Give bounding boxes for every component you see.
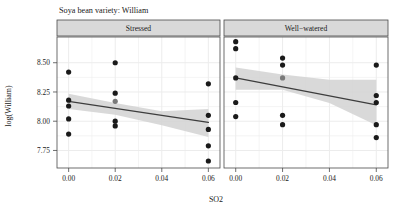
data-point xyxy=(206,127,211,132)
data-point xyxy=(66,131,71,136)
y-axis-title: log(William) xyxy=(4,85,13,127)
data-point xyxy=(374,135,379,140)
data-point xyxy=(66,103,71,108)
y-tick-label: 8.25 xyxy=(37,88,50,97)
x-tick-label: 0.06 xyxy=(370,174,383,183)
data-point xyxy=(206,81,211,86)
data-point xyxy=(233,100,238,105)
y-tick-label: 8.00 xyxy=(37,117,50,126)
data-point xyxy=(374,93,379,98)
data-point xyxy=(206,113,211,118)
x-axis-title: SO2 xyxy=(209,195,223,204)
plot-title: Soya bean variety: William xyxy=(59,6,149,15)
strip-label: Stressed xyxy=(126,24,152,33)
data-point xyxy=(233,114,238,119)
strip-label: Well−watered xyxy=(285,24,328,33)
chart-figure: Soya bean variety: William Stressed Well… xyxy=(0,0,395,207)
x-tick-label: 0.04 xyxy=(323,174,336,183)
data-point xyxy=(374,62,379,67)
data-point xyxy=(113,119,118,124)
panel-stressed: Stressed xyxy=(57,20,220,168)
x-tick-label: 0.06 xyxy=(202,174,215,183)
data-point xyxy=(113,91,118,96)
data-point xyxy=(233,75,238,80)
data-point xyxy=(233,39,238,44)
y-tick-label: 8.50 xyxy=(37,58,50,67)
x-tick-label: 0.04 xyxy=(155,174,168,183)
data-point xyxy=(280,62,285,67)
data-point xyxy=(66,116,71,121)
data-point xyxy=(206,158,211,163)
data-point xyxy=(374,122,379,127)
x-tick-label: 0.02 xyxy=(109,174,122,183)
data-point xyxy=(66,69,71,74)
x-tick-label: 0.00 xyxy=(229,174,242,183)
data-point xyxy=(280,75,285,80)
data-point xyxy=(280,55,285,60)
data-point xyxy=(113,60,118,65)
data-point xyxy=(113,99,118,104)
data-point xyxy=(280,122,285,127)
data-point xyxy=(233,46,238,51)
data-point xyxy=(113,123,118,128)
panel-well-watered: Well−watered xyxy=(224,20,388,168)
data-point xyxy=(280,113,285,118)
x-tick-label: 0.00 xyxy=(62,174,75,183)
y-tick-label: 7.75 xyxy=(37,146,50,155)
x-tick-label: 0.02 xyxy=(276,174,289,183)
data-point xyxy=(374,100,379,105)
data-point xyxy=(206,143,211,148)
data-point xyxy=(66,98,71,103)
soya-bean-scatter-plot: Soya bean variety: William Stressed Well… xyxy=(0,0,395,207)
